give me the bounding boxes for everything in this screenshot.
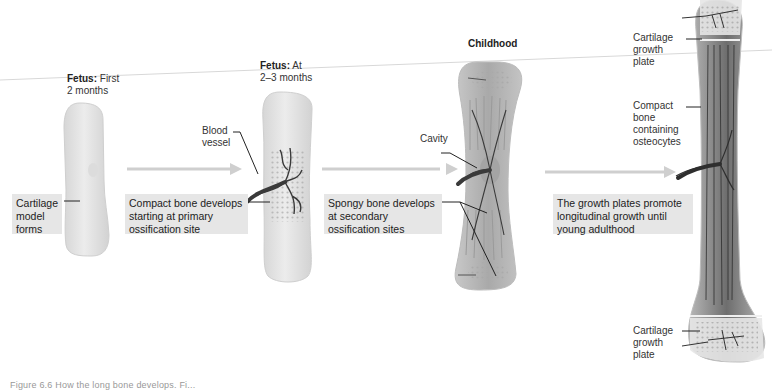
spongy-bone-develops-box: Spongy bone develops at secondary ossifi… <box>324 194 442 234</box>
compact-bone-osteocytes-label: Compact bone containing osteocytes <box>633 100 681 148</box>
growth-plates-promote-box: The growth plates promote longitudinal g… <box>553 194 693 234</box>
compact-bone-develops-box: Compact bone develops starting at primar… <box>125 194 248 234</box>
cartilage-model-forms-box: Cartilage model forms <box>12 194 62 234</box>
stage-2-title: Fetus: At 2–3 months <box>260 60 312 84</box>
cartilage-model-bone <box>64 103 109 256</box>
childhood-bone <box>455 62 522 290</box>
stage-3-title: Childhood <box>468 38 517 50</box>
stage-1-title: Fetus: First 2 months <box>67 73 119 97</box>
stage-arrows <box>127 163 676 178</box>
primary-ossification-bone <box>247 92 312 282</box>
leader-lines <box>64 39 702 331</box>
cavity-label: Cavity <box>420 133 448 145</box>
cartilage-growth-plate-top-label: Cartilage growth plate <box>633 32 673 68</box>
adult-long-bone <box>676 0 765 362</box>
figure-caption: Figure 6.6 How the long bone develops. F… <box>10 380 195 390</box>
blood-vessel-label: Blood vessel <box>202 125 230 149</box>
cartilage-growth-plate-bottom-label: Cartilage growth plate <box>633 325 673 361</box>
